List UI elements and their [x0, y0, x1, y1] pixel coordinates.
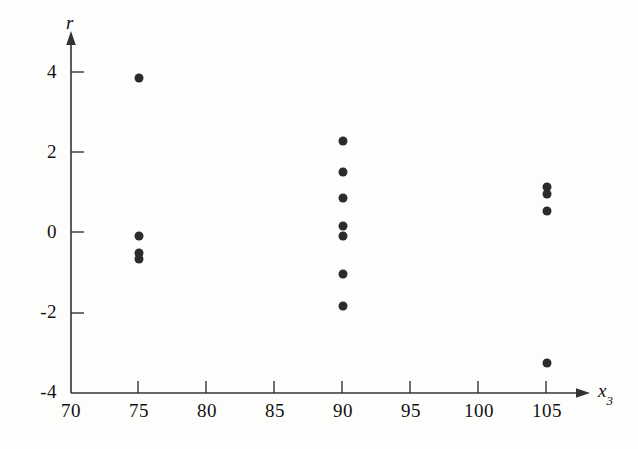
data-point — [339, 222, 348, 231]
x-axis-title: x3 — [598, 380, 613, 406]
y-tick-label-neg2: -2 — [40, 301, 57, 323]
x-tick-label-70: 70 — [61, 400, 81, 422]
x-tick-label-85: 85 — [265, 400, 285, 422]
data-point — [135, 255, 144, 264]
data-point — [135, 74, 144, 83]
x-tick-label-75: 75 — [129, 400, 149, 422]
y-tick-label-0: 0 — [47, 221, 57, 243]
y-tick-label-2: 2 — [47, 141, 57, 163]
data-point — [543, 359, 552, 368]
data-point — [339, 168, 348, 177]
scatter-plot-figure: r x3 707580859095100105-4-2024 — [0, 0, 638, 449]
y-tick-label-neg4: -4 — [40, 381, 57, 403]
x-tick-label-90: 90 — [333, 400, 353, 422]
y-tick-label-4: 4 — [47, 61, 57, 83]
data-point — [543, 207, 552, 216]
y-axis-title: r — [66, 12, 73, 34]
data-point — [339, 270, 348, 279]
x-tick-label-80: 80 — [197, 400, 217, 422]
x-tick-label-95: 95 — [401, 400, 421, 422]
x-tick-label-100: 100 — [464, 400, 494, 422]
x-tick-label-105: 105 — [532, 400, 562, 422]
data-point — [543, 190, 552, 199]
data-point — [339, 302, 348, 311]
data-point — [339, 194, 348, 203]
data-point — [339, 232, 348, 241]
data-point — [135, 232, 144, 241]
x-axis-arrowhead — [576, 388, 590, 398]
axes-lines — [0, 0, 638, 449]
data-point — [339, 136, 348, 145]
x-axis-title-subscript: 3 — [606, 393, 613, 408]
